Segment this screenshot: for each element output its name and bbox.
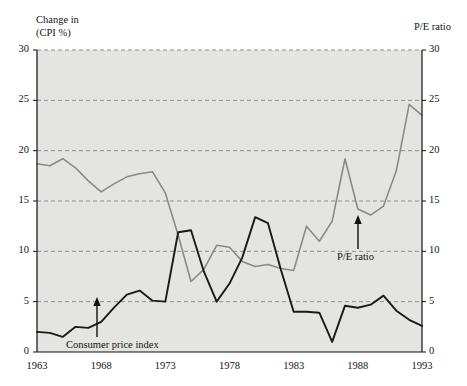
ytick-label-left-15: 15 xyxy=(5,194,29,205)
xtick-label-1968: 1968 xyxy=(79,360,123,371)
xtick-label-1993: 1993 xyxy=(400,360,444,371)
ytick-label-left-0: 0 xyxy=(5,345,29,356)
ytick-label-left-20: 20 xyxy=(5,144,29,155)
annotation-consumer-price-index: Consumer price index xyxy=(66,339,159,350)
chart-figure: Change in (CPI %) P/E ratio 051015202530… xyxy=(0,0,467,386)
xtick-label-1988: 1988 xyxy=(336,360,380,371)
ytick-label-right-25: 25 xyxy=(429,93,453,104)
xtick-label-1963: 1963 xyxy=(15,360,59,371)
ytick-label-left-5: 5 xyxy=(5,295,29,306)
annotation-pe-ratio: P/E ratio xyxy=(337,251,374,262)
ytick-label-left-10: 10 xyxy=(5,244,29,255)
ytick-label-left-25: 25 xyxy=(5,93,29,104)
plot-area xyxy=(0,0,467,386)
ytick-label-right-10: 10 xyxy=(429,244,453,255)
ytick-label-left-30: 30 xyxy=(5,43,29,54)
ytick-label-right-30: 30 xyxy=(429,43,453,54)
xtick-label-1978: 1978 xyxy=(208,360,252,371)
ytick-label-right-5: 5 xyxy=(429,295,453,306)
xtick-label-1973: 1973 xyxy=(143,360,187,371)
ytick-label-right-15: 15 xyxy=(429,194,453,205)
ytick-label-right-20: 20 xyxy=(429,144,453,155)
ytick-label-right-0: 0 xyxy=(429,345,453,356)
xtick-label-1983: 1983 xyxy=(272,360,316,371)
